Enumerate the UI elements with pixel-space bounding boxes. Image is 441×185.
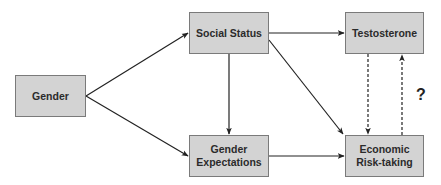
node-economic-risk-taking-line2: Risk-taking [356,156,413,169]
node-gender-expectations-line2: Expectations [196,156,261,169]
node-gender-label: Gender [32,90,69,103]
node-social-status-label: Social Status [196,27,262,40]
node-testosterone: Testosterone [345,12,424,54]
node-gender-expectations: Gender Expectations [189,135,269,177]
question-mark-annotation: ? [416,86,426,104]
node-economic-risk-taking-line1: Economic [359,143,409,156]
node-gender: Gender [15,75,86,117]
node-economic-risk-taking: Economic Risk-taking [345,135,424,177]
node-gender-expectations-line1: Gender [211,143,248,156]
edge-gender-to-social-status [86,33,188,96]
edge-gender-to-gender-expectations [86,96,188,156]
node-social-status: Social Status [189,12,269,54]
node-testosterone-label: Testosterone [352,27,417,40]
edge-social-status-to-economic-risk [269,40,343,134]
